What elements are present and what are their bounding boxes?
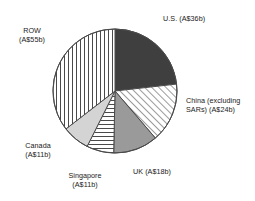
slice-label-row: ROW (A$55b) <box>8 27 56 44</box>
pie-chart-figure: U.S. (A$36b) China (excluding SARs) (A$2… <box>0 0 255 201</box>
slice-label-china: China (excluding SARs) (A$24b) <box>186 97 252 114</box>
slice-label-us: U.S. (A$36b) <box>163 15 205 24</box>
slice-label-singapore: Singapore (A$11b) <box>60 172 110 189</box>
pie-slice-u-s <box>115 29 177 91</box>
slice-label-uk: UK (A$18b) <box>133 168 171 177</box>
slice-label-canada: Canada (A$11b) <box>14 142 62 159</box>
pie-slices-group <box>53 29 177 153</box>
